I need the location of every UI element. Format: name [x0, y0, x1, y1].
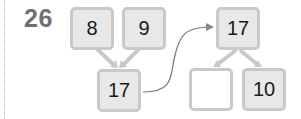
right-tree-top-box: 17	[216, 7, 260, 50]
right-tree-bottom-right-box: 10	[242, 68, 286, 111]
right-tree-empty-answer-box[interactable]	[189, 68, 233, 111]
arrow-17-to-empty	[218, 51, 235, 64]
arrow-17-to-10	[241, 51, 257, 64]
connector-arrowhead	[206, 23, 214, 31]
left-tree-top-left-box: 8	[70, 7, 114, 50]
left-tree-bottom-box: 17	[97, 69, 141, 112]
arrow-8-to-17	[98, 50, 113, 64]
left-tree-top-right-box: 9	[122, 7, 166, 50]
arrow-9-to-17	[124, 50, 138, 64]
